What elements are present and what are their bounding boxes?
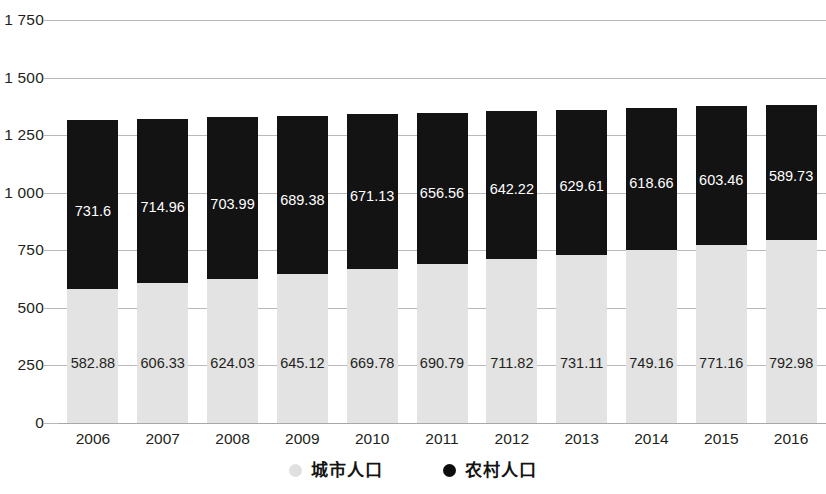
x-tick-label-2011: 2011 xyxy=(407,431,477,447)
bar-segment-urban xyxy=(486,259,537,423)
x-tick-label-2013: 2013 xyxy=(547,431,617,447)
bar-group: 582.88731.6 xyxy=(67,120,118,423)
x-tick-label-2008: 2008 xyxy=(198,431,268,447)
y-tick-label: 1 500 xyxy=(0,70,44,86)
x-tick-label-2007: 2007 xyxy=(128,431,198,447)
bar-group: 606.33714.96 xyxy=(137,119,188,423)
gridline-0 xyxy=(58,423,826,424)
bar-group: 771.16603.46 xyxy=(696,106,747,423)
bar-value-label-urban: 582.88 xyxy=(67,356,118,371)
y-tick-label: 1 000 xyxy=(0,185,44,201)
y-tick-label: 1 250 xyxy=(0,127,44,143)
legend-swatch-rural-icon xyxy=(443,464,456,477)
x-tick-label-2016: 2016 xyxy=(756,431,826,447)
bar-value-label-urban: 771.16 xyxy=(696,356,747,371)
bar-value-label-rural: 656.56 xyxy=(417,186,468,201)
bar-value-label-rural: 731.6 xyxy=(67,204,118,219)
bar-value-label-rural: 629.61 xyxy=(556,179,607,194)
bar-segment-urban xyxy=(626,250,677,423)
bar-segment-urban xyxy=(277,274,328,423)
x-tick-label-2014: 2014 xyxy=(617,431,687,447)
x-tick-label-2009: 2009 xyxy=(267,431,337,447)
bar-segment-urban xyxy=(347,269,398,423)
bar-group: 749.16618.66 xyxy=(626,108,677,423)
bar-value-label-rural: 703.99 xyxy=(207,197,258,212)
plot-area: 582.88731.6606.33714.96624.03703.99645.1… xyxy=(58,0,826,423)
legend-item[interactable]: 城市人口 xyxy=(289,462,383,479)
chart-legend: 城市人口农村人口 xyxy=(0,462,826,479)
bar-group: 711.82642.22 xyxy=(486,111,537,423)
bar-segment-urban xyxy=(137,283,188,423)
bar-value-label-urban: 645.12 xyxy=(277,356,328,371)
bar-group: 792.98589.73 xyxy=(766,105,817,423)
y-tick-label: 1 750 xyxy=(0,12,44,28)
legend-item[interactable]: 农村人口 xyxy=(443,462,537,479)
stacked-bar-chart: 02505007501 0001 2501 5001 750 582.88731… xyxy=(0,0,826,494)
y-tick-label: 0 xyxy=(0,415,44,431)
gridline-1500 xyxy=(58,78,826,79)
bar-group: 645.12689.38 xyxy=(277,116,328,423)
y-tick-label: 250 xyxy=(0,357,44,373)
bar-value-label-rural: 642.22 xyxy=(486,182,537,197)
bar-segment-urban xyxy=(696,245,747,423)
bar-segment-urban xyxy=(207,279,258,423)
bar-group: 669.78671.13 xyxy=(347,114,398,423)
bar-value-label-rural: 671.13 xyxy=(347,189,398,204)
bar-segment-urban xyxy=(556,255,607,423)
bar-value-label-urban: 731.11 xyxy=(556,356,607,371)
legend-label: 城市人口 xyxy=(311,462,383,479)
bar-group: 690.79656.56 xyxy=(417,113,468,423)
x-tick-label-2006: 2006 xyxy=(58,431,128,447)
bar-value-label-urban: 749.16 xyxy=(626,356,677,371)
x-tick-label-2010: 2010 xyxy=(337,431,407,447)
y-tick-label: 500 xyxy=(0,300,44,316)
bar-group: 731.11629.61 xyxy=(556,110,607,423)
bar-value-label-rural: 618.66 xyxy=(626,176,677,191)
bar-value-label-urban: 690.79 xyxy=(417,356,468,371)
bar-value-label-rural: 603.46 xyxy=(696,173,747,188)
bar-value-label-urban: 624.03 xyxy=(207,356,258,371)
bar-segment-urban xyxy=(417,264,468,423)
x-tick-label-2012: 2012 xyxy=(477,431,547,447)
legend-label: 农村人口 xyxy=(465,462,537,479)
bar-value-label-urban: 792.98 xyxy=(766,356,817,371)
bar-segment-urban xyxy=(766,240,817,423)
bar-group: 624.03703.99 xyxy=(207,117,258,423)
legend-swatch-urban-icon xyxy=(289,464,302,477)
bar-value-label-rural: 589.73 xyxy=(766,169,817,184)
y-tick-label: 750 xyxy=(0,242,44,258)
bar-value-label-rural: 714.96 xyxy=(137,200,188,215)
bar-value-label-urban: 711.82 xyxy=(486,356,537,371)
gridline-1750 xyxy=(58,20,826,21)
bar-value-label-urban: 669.78 xyxy=(347,356,398,371)
x-tick-label-2015: 2015 xyxy=(686,431,756,447)
bar-value-label-urban: 606.33 xyxy=(137,356,188,371)
bar-value-label-rural: 689.38 xyxy=(277,193,328,208)
